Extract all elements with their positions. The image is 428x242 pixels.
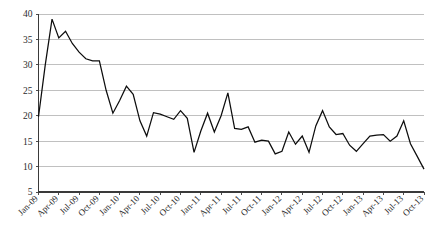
- x-tick-label: Oct-09: [76, 193, 101, 218]
- data-series-line: [39, 19, 425, 169]
- x-tick-label: Apr-10: [116, 193, 142, 219]
- y-tick-label: 30: [23, 60, 33, 70]
- y-tick-label: 40: [23, 9, 33, 19]
- y-tick-label: 35: [23, 35, 33, 45]
- y-axis-tick-labels: 510152025303540: [23, 9, 33, 197]
- y-tick-label: 10: [23, 162, 33, 172]
- x-tick-label: Oct-12: [320, 193, 345, 218]
- x-tick-label: Oct-11: [239, 193, 264, 218]
- x-tick-label: Apr-09: [35, 193, 61, 219]
- x-tick-label: Oct-13: [401, 193, 426, 218]
- y-tick-label: 20: [23, 111, 33, 121]
- chart-canvas: 510152025303540 Jan-09Apr-09Jul-09Oct-09…: [0, 0, 428, 242]
- y-tick-label: 15: [23, 137, 33, 147]
- y-tick-label: 25: [23, 86, 33, 96]
- x-axis-tick-labels: Jan-09Apr-09Jul-09Oct-09Jan-10Apr-10Jul-…: [16, 193, 426, 219]
- gridlines: [39, 14, 425, 192]
- x-tick-label: Apr-11: [197, 193, 222, 218]
- line-chart: 510152025303540 Jan-09Apr-09Jul-09Oct-09…: [0, 0, 428, 242]
- x-tick-label: Apr-13: [360, 193, 386, 219]
- x-tick-label: Apr-12: [278, 193, 303, 218]
- x-tick-label: Oct-10: [157, 193, 182, 218]
